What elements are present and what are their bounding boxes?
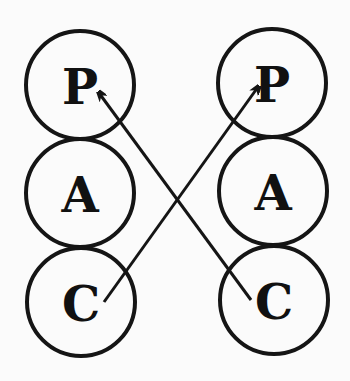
diagram-canvas: P A C P A C — [0, 0, 350, 381]
right-column: P A C — [218, 29, 328, 354]
right-child-state: C — [220, 246, 328, 354]
left-child-state: C — [27, 248, 135, 356]
arrow-left-child-to-right-parent — [104, 87, 258, 302]
left-adult-state: A — [26, 139, 134, 247]
left-parent-state: P — [26, 31, 134, 139]
right-child-label: C — [255, 274, 293, 330]
right-parent-label: P — [254, 57, 290, 113]
left-parent-label: P — [62, 59, 98, 115]
left-column: P A C — [26, 31, 135, 356]
right-adult-label: A — [253, 165, 292, 221]
left-adult-label: A — [60, 167, 99, 223]
left-child-label: C — [62, 276, 100, 332]
right-adult-state: A — [219, 137, 327, 245]
ego-state-diagram: P A C P A C — [0, 0, 350, 381]
